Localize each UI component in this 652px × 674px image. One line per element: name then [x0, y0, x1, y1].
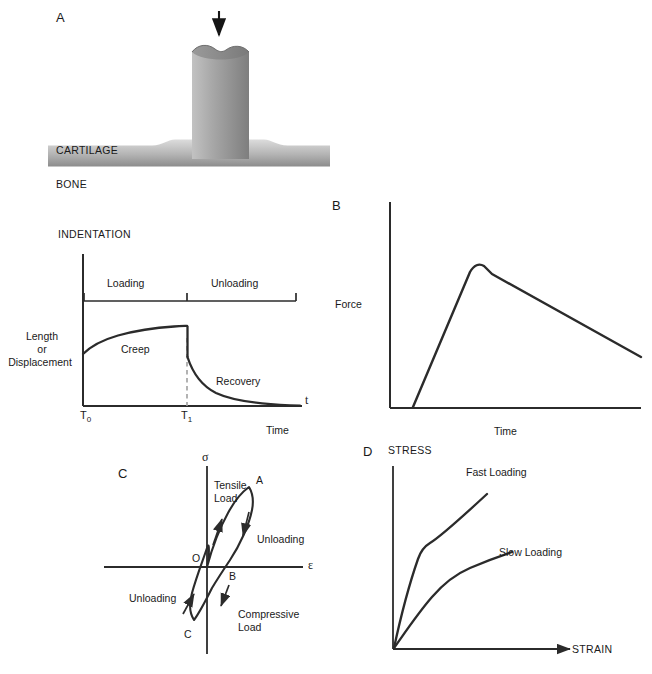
strain-axis-label: STRAIN — [572, 643, 612, 655]
fast-loading-label: Fast Loading — [466, 466, 527, 478]
panel-letter-b: B — [332, 198, 341, 213]
indenter-top-surface — [192, 45, 249, 59]
compressive-load-label-line1: Compressive — [238, 608, 299, 620]
sigma-axis-symbol: σ — [202, 450, 208, 465]
panel-letter-a: A — [56, 10, 65, 25]
displacement-axis-label-line1: Length — [6, 330, 78, 342]
panel-letter-c: C — [118, 466, 128, 481]
indenter-cylinder — [192, 52, 249, 159]
fast-loading-curve — [394, 494, 487, 648]
recovery-label: Recovery — [216, 375, 260, 387]
tensile-load-arrow — [213, 519, 222, 545]
compressive-load-arrow — [221, 585, 229, 606]
cartilage-label: CARTILAGE — [56, 144, 118, 156]
tensile-load-label-line2: Load — [214, 492, 237, 504]
t1-tick-label: T1 — [181, 409, 192, 424]
unloading-label: Unloading — [211, 277, 258, 289]
bone-label: BONE — [56, 178, 87, 190]
creep-label: Creep — [121, 343, 150, 355]
point-c-label: C — [184, 628, 192, 640]
unloading-lower-arrow — [183, 594, 194, 614]
t0-tick-label: T0 — [80, 409, 91, 424]
point-b-label: B — [229, 570, 236, 582]
stress-axis-label: STRESS — [388, 444, 432, 456]
indenter-top-edge — [192, 45, 249, 52]
unloading-upper-arrow — [243, 512, 249, 536]
point-a-label: A — [256, 474, 263, 486]
slow-loading-label: Slow Loading — [499, 546, 562, 558]
unloading-lower-label: Unloading — [129, 592, 176, 604]
time-axis-label-b: Time — [494, 425, 517, 437]
loading-unloading-bracket — [84, 293, 296, 301]
force-relaxation-curve — [413, 265, 641, 407]
panel-c-graph — [104, 466, 303, 654]
panel-b-graph — [390, 202, 641, 408]
unloading-upper-label: Unloading — [257, 533, 304, 545]
indentation-label: INDENTATION — [58, 228, 131, 240]
time-axis-label-a: Time — [266, 424, 289, 436]
figure-root: A CARTILAGE BONE INDENTATION Loading Unl… — [0, 0, 652, 674]
force-axis-label: Force — [335, 298, 362, 310]
displacement-axis-label-line3: Displacement — [0, 356, 80, 368]
point-o-label: O — [192, 552, 200, 564]
time-axis-symbol: t — [305, 393, 308, 408]
compressive-load-label-line2: Load — [238, 621, 261, 633]
figure-graphics — [0, 0, 652, 674]
panel-letter-d: D — [363, 444, 373, 459]
tensile-load-label-line1: Tensile — [214, 479, 247, 491]
loading-label: Loading — [107, 277, 144, 289]
epsilon-axis-symbol: ε — [308, 558, 313, 573]
slow-loading-curve — [394, 552, 512, 648]
displacement-axis-label-line2: or — [6, 343, 78, 355]
